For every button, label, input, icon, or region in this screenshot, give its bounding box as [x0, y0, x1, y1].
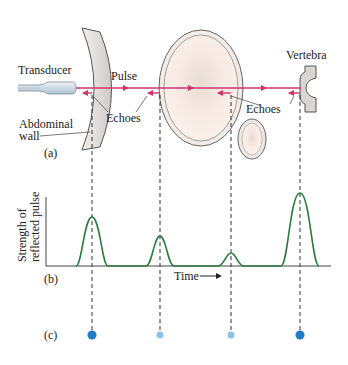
pulse-label: Pulse: [111, 69, 137, 83]
panel-c-tag: (c): [44, 328, 57, 342]
echoes-label-left: Echoes: [106, 111, 141, 125]
panel-a-tag: (a): [44, 146, 57, 160]
panel-c-dots: (c): [44, 328, 305, 342]
transducer-label: Transducer: [18, 63, 72, 77]
y-axis-label-1: Strength of: [15, 208, 29, 262]
vertebra-label: Vertebra: [286, 48, 327, 62]
echo-dot-weak: [228, 332, 235, 339]
transducer-icon: [18, 82, 76, 94]
x-axis-label: Time: [174, 269, 199, 283]
echoes-label-right: Echoes: [246, 102, 281, 116]
echo-dot-strong: [296, 331, 305, 340]
abdominal-wall: [82, 28, 112, 150]
reflected-pulse-curve: [76, 193, 319, 266]
ultrasound-diagram: Transducer Pulse Echoes Echoes Vertebra …: [0, 0, 348, 365]
y-axis-label-2: reflected pulse: [28, 192, 42, 262]
echo-dot-weak: [157, 332, 164, 339]
abdominal-wall-label-2: wall: [19, 129, 40, 143]
echo-dot-strong: [88, 331, 97, 340]
panel-b-tag: (b): [44, 272, 58, 286]
panel-b-graph: Strength of reflected pulse Time (b): [15, 192, 331, 286]
time-arrow-icon: [200, 273, 222, 279]
vertebra-shape: [300, 66, 316, 112]
panel-a: Transducer Pulse Echoes Echoes Vertebra …: [18, 28, 327, 160]
